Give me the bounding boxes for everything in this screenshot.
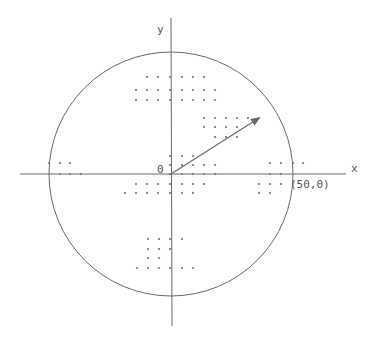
grid-dot [169,89,171,91]
grid-dot [192,155,194,157]
grid-dot [269,192,271,194]
grid-dot [181,76,183,78]
grid-dot [192,183,194,185]
grid-dot [158,238,160,240]
grid-dot [169,164,171,166]
grid-dot [169,183,171,185]
grid-dot [136,267,138,269]
grid-dot [181,164,183,166]
y-axis [171,18,172,326]
grid-dot [302,162,304,164]
grid-dot [48,162,50,164]
grid-dot [203,126,205,128]
grid-dot [157,76,159,78]
grid-dot [157,89,159,91]
grid-dot [169,155,171,157]
grid-dot [181,183,183,185]
grid-dot [280,162,282,164]
grid-dot [225,136,227,138]
grid-dot [236,117,238,119]
vector-diagram: x y 0 (50,0) [0,0,374,342]
grid-dot [203,89,205,91]
grid-dot [192,267,194,269]
grid-dot [181,173,183,175]
grid-dot [157,183,159,185]
grid-dot [236,136,238,138]
dot-grid [48,76,304,269]
grid-dot [192,89,194,91]
grid-dot [169,173,171,175]
grid-dot [169,267,171,269]
grid-dot [269,162,271,164]
grid-dot [181,238,183,240]
grid-dot [146,99,148,101]
grid-dot [169,192,171,194]
grid-dot [203,173,205,175]
grid-dot [158,267,160,269]
x-axis-label: x [351,162,358,175]
grid-dot [124,192,126,194]
grid-dot [158,257,160,259]
grid-dot [192,99,194,101]
grid-dot [214,126,216,128]
grid-dot [181,89,183,91]
origin-label: 0 [157,163,164,176]
grid-dot [169,248,171,250]
grid-dot [59,162,61,164]
grid-dot [203,99,205,101]
grid-dot [292,162,294,164]
grid-dot [203,117,205,119]
grid-dot [157,192,159,194]
grid-dot [147,248,149,250]
grid-dot [214,117,216,119]
grid-dot [181,155,183,157]
grid-dot [192,164,194,166]
grid-dot [214,99,216,101]
grid-dot [146,183,148,185]
grid-dot [146,76,148,78]
grid-dot [269,183,271,185]
grid-dot [158,248,160,250]
grid-dot [169,99,171,101]
grid-dot [135,99,137,101]
grid-dot [214,164,216,166]
grid-dot [135,192,137,194]
grid-dot [181,99,183,101]
grid-dot [225,126,227,128]
grid-dot [192,76,194,78]
grid-dot [225,117,227,119]
grid-dot [147,238,149,240]
grid-dot [135,183,137,185]
grid-dot [69,162,71,164]
grid-dot [169,238,171,240]
grid-dot [280,183,282,185]
grid-dot [59,173,61,175]
grid-dot [247,117,249,119]
grid-dot [69,173,71,175]
grid-dot [214,136,216,138]
grid-dot [269,173,271,175]
grid-dot [203,76,205,78]
grid-dot [147,267,149,269]
grid-dot [181,267,183,269]
grid-dot [181,192,183,194]
grid-dot [147,257,149,259]
grid-dot [236,126,238,128]
grid-dot [258,192,260,194]
grid-dot [280,173,282,175]
point-label: (50,0) [290,178,330,191]
grid-dot [146,89,148,91]
grid-dot [203,164,205,166]
grid-dot [214,173,216,175]
grid-dot [169,76,171,78]
grid-dot [157,99,159,101]
grid-dot [135,89,137,91]
grid-dot [203,183,205,185]
y-axis-label: y [157,23,164,36]
grid-dot [214,89,216,91]
grid-dot [80,173,82,175]
grid-dot [146,192,148,194]
grid-dot [192,192,194,194]
grid-dot [192,173,194,175]
grid-dot [258,183,260,185]
